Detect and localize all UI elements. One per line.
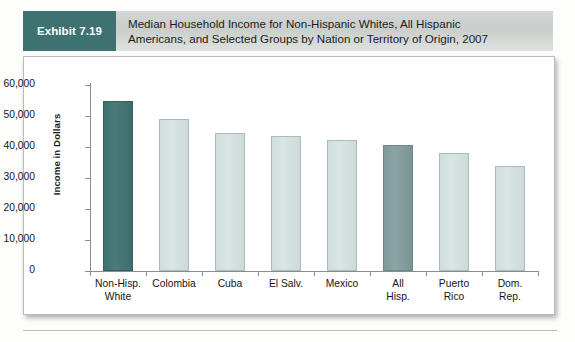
exhibit-title: Median Household Income for Non-Hispanic… xyxy=(116,11,553,51)
y-tick-mark xyxy=(85,178,91,179)
exhibit-number-tag: Exhibit 7.19 xyxy=(23,11,116,51)
y-tick-label: 50,000 xyxy=(0,109,35,120)
x-axis-label: PuertoRico xyxy=(426,278,482,303)
x-axis-label: Mexico xyxy=(314,278,370,291)
y-tick-mark xyxy=(85,240,91,241)
x-tick-mark xyxy=(482,271,483,276)
chart-frame: Income in Dollars 010,00020,00030,00040,… xyxy=(23,56,555,315)
bar-puerto-rico xyxy=(439,153,469,271)
x-tick-mark xyxy=(202,271,203,276)
bar-cuba xyxy=(215,133,245,271)
x-axis-label-line: White xyxy=(90,291,146,304)
exhibit-header: Exhibit 7.19 Median Household Income for… xyxy=(23,11,553,51)
page-divider-rule xyxy=(23,330,557,331)
y-tick-label: 10,000 xyxy=(0,233,35,244)
y-tick-mark xyxy=(85,85,91,86)
page-canvas: Exhibit 7.19 Median Household Income for… xyxy=(0,0,575,342)
bar-non-hisp-white xyxy=(103,101,133,272)
x-axis-label-line: Mexico xyxy=(314,278,370,291)
bar-dom-rep xyxy=(495,166,525,271)
bar-all-hisp xyxy=(383,145,413,271)
bar-colombia xyxy=(159,119,189,271)
exhibit-title-line-2: Americans, and Selected Groups by Nation… xyxy=(128,31,488,47)
x-tick-mark xyxy=(538,271,539,276)
x-axis-label-line: Dom. xyxy=(482,278,538,291)
x-axis-label-line: All xyxy=(370,278,426,291)
x-axis-label: Cuba xyxy=(202,278,258,291)
x-tick-mark xyxy=(370,271,371,276)
x-axis-label-line: Puerto xyxy=(426,278,482,291)
y-tick-mark xyxy=(85,147,91,148)
y-tick-label: 20,000 xyxy=(0,202,35,213)
x-tick-mark xyxy=(90,271,91,276)
bar-chart-plot: Income in Dollars 010,00020,00030,00040,… xyxy=(24,57,554,314)
x-axis-label-line: Cuba xyxy=(202,278,258,291)
x-axis-label-line: Rico xyxy=(426,291,482,304)
y-tick-mark xyxy=(85,209,91,210)
x-axis-label-line: Hisp. xyxy=(370,291,426,304)
x-tick-mark xyxy=(146,271,147,276)
y-tick-label: 0 xyxy=(0,264,35,275)
y-axis-title: Income in Dollars xyxy=(51,90,62,220)
x-axis-label: Colombia xyxy=(146,278,202,291)
exhibit-title-line-1: Median Household Income for Non-Hispanic… xyxy=(128,16,488,32)
y-tick-mark xyxy=(85,116,91,117)
x-axis-label: Non-Hisp.White xyxy=(90,278,146,303)
x-axis-label: El Salv. xyxy=(258,278,314,291)
x-axis-label-line: Rep. xyxy=(482,291,538,304)
x-axis-label: Dom.Rep. xyxy=(482,278,538,303)
bar-el-salv xyxy=(271,136,301,271)
x-tick-mark xyxy=(426,271,427,276)
x-axis-label: AllHisp. xyxy=(370,278,426,303)
y-tick-label: 60,000 xyxy=(0,78,35,89)
x-axis-label-line: Colombia xyxy=(146,278,202,291)
y-tick-label: 40,000 xyxy=(0,140,35,151)
bar-mexico xyxy=(327,140,357,271)
x-tick-mark xyxy=(258,271,259,276)
x-tick-mark xyxy=(314,271,315,276)
y-tick-label: 30,000 xyxy=(0,171,35,182)
x-axis-label-line: Non-Hisp. xyxy=(90,278,146,291)
x-axis-label-line: El Salv. xyxy=(258,278,314,291)
